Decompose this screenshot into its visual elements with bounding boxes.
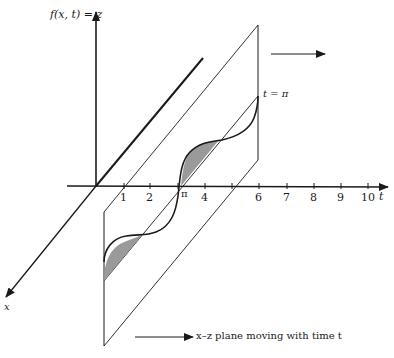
tick-label-9: 9 (337, 191, 344, 204)
z-axis-label: f(x, t) = z (50, 8, 102, 21)
tick-label-10: 10 (361, 191, 375, 204)
x-axis (6, 186, 96, 297)
t-axis-label: t (379, 190, 383, 203)
wave-curve (104, 96, 258, 262)
x-axis-label: x (4, 301, 10, 312)
plane-caption: x–z plane moving with time t (196, 330, 342, 341)
tick-label-7: 7 (283, 191, 290, 204)
tick-label-2: 2 (146, 191, 153, 204)
tick-label-6: 6 (255, 191, 262, 204)
plane-guide-line (104, 25, 258, 212)
tick-label-8: 8 (310, 191, 317, 204)
tick-label-pi: π (181, 188, 188, 199)
plane-time-label: t = π (263, 88, 288, 99)
diagram-canvas (0, 0, 394, 358)
shaded-region-upper (181, 140, 219, 186)
tick-label-4: 4 (201, 191, 208, 204)
tick-label-1: 1 (120, 191, 127, 204)
t-axis (67, 186, 388, 187)
